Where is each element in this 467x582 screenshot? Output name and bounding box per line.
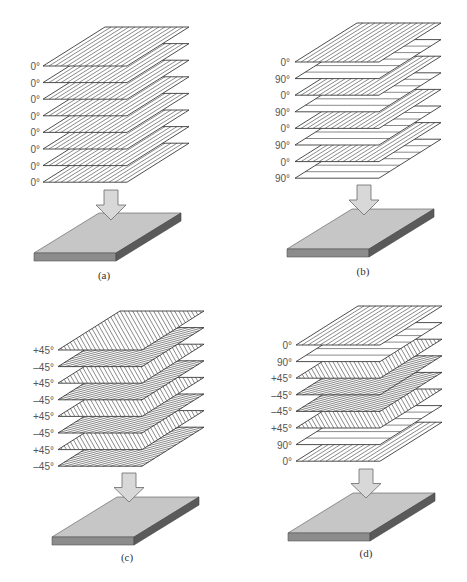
ply-angle-label: 0° — [280, 123, 290, 134]
ply-angle-label: 0° — [280, 157, 290, 168]
consolidated-laminate-plate — [288, 493, 435, 541]
ply-angle-label: –45° — [33, 395, 54, 406]
consolidated-laminate-plate — [52, 497, 199, 545]
ply-angle-label: –45° — [33, 362, 54, 373]
ply-angle-label: 90° — [277, 440, 292, 451]
ply-angle-label: 0° — [282, 456, 292, 467]
ply-angle-label: 90° — [275, 107, 290, 118]
panel-caption: (d) — [360, 547, 373, 560]
ply-angle-label: 0° — [30, 94, 40, 105]
ply-angle-label: 0° — [30, 61, 40, 72]
ply-angle-label: 90° — [275, 140, 290, 151]
panel-d-quasi-isotropic: 0°90°+45°–45°–45°+45°90°0°(d) — [271, 306, 442, 560]
plate-front-face — [287, 249, 369, 257]
ply-angle-label: –45° — [33, 428, 54, 439]
ply-angle-label: 90° — [275, 173, 290, 184]
ply-angle-label: 0° — [280, 57, 290, 68]
consolidated-laminate-plate — [34, 213, 181, 261]
ply-angle-label: +45° — [33, 345, 54, 356]
consolidated-laminate-plate — [287, 209, 434, 257]
ply-angle-label: 0° — [30, 78, 40, 89]
panel-c-angle-ply: –45°+45°–45°+45°–45°+45°–45°+45°(c) — [33, 311, 204, 564]
panel-a-unidirectional: 0°0°0°0°0°0°0°0°(a) — [30, 27, 189, 282]
ply-angle-label: +45° — [33, 378, 54, 389]
plate-front-face — [52, 537, 134, 545]
ply-angle-label: 0° — [30, 177, 40, 188]
ply-angle-label: 0° — [30, 144, 40, 155]
ply-angle-label: 0° — [282, 340, 292, 351]
ply-angle-label: 0° — [30, 111, 40, 122]
ply-angle-label: +45° — [33, 411, 54, 422]
laminate-stacking-diagram: 0°0°0°0°0°0°0°0°(a) 90°0°90°0°90°0°90°0°… — [0, 0, 467, 582]
plate-front-face — [288, 533, 370, 541]
ply-angle-label: 0° — [30, 161, 40, 172]
ply-angle-label: +45° — [33, 445, 54, 456]
ply-angle-label: 0° — [280, 90, 290, 101]
ply-angle-label: –45° — [271, 406, 292, 417]
ply-angle-label: +45° — [271, 373, 292, 384]
ply-angle-label: 0° — [30, 127, 40, 138]
ply-angle-label: 90° — [277, 357, 292, 368]
ply-angle-label: –45° — [271, 390, 292, 401]
ply-angle-label: +45° — [271, 423, 292, 434]
ply-angle-label: 90° — [275, 74, 290, 85]
panel-b-cross-ply: 90°0°90°0°90°0°90°0°(b) — [275, 23, 441, 278]
ply-angle-label: –45° — [33, 461, 54, 472]
plate-front-face — [34, 253, 116, 261]
panel-caption: (b) — [357, 265, 370, 278]
panel-caption: (a) — [98, 269, 111, 282]
panel-caption: (c) — [121, 551, 134, 564]
